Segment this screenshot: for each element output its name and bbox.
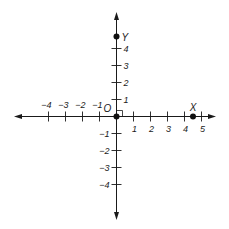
origin-label: O: [104, 103, 112, 114]
y-tick-label: −2: [99, 146, 109, 156]
x-tick-label: 4: [183, 124, 188, 134]
y-tick-label: −3: [99, 163, 109, 173]
y-tick-label: −4: [99, 180, 109, 190]
y-tick-label: 3: [124, 61, 129, 71]
point-y-marker: [114, 34, 120, 40]
y-tick-label: 1: [124, 95, 129, 105]
x-axis-right-arrow-icon: [208, 114, 216, 119]
y-tick-label: 4: [124, 44, 129, 54]
x-tick-label: −3: [58, 100, 68, 110]
y-axis-top-arrow-icon: [114, 12, 119, 20]
x-tick-label: −4: [41, 100, 51, 110]
point-origin-marker: [114, 114, 120, 120]
y-axis-bottom-arrow-icon: [114, 212, 119, 220]
x-tick-label: 5: [200, 124, 206, 134]
point-y-label: Y: [122, 32, 130, 43]
x-tick-label: −1: [92, 100, 102, 110]
y-tick-label: −1: [99, 129, 109, 139]
point-x-label: X: [189, 102, 197, 113]
x-tick-label: 2: [148, 124, 154, 134]
x-tick-label: −2: [75, 100, 85, 110]
x-axis-left-arrow-icon: [14, 114, 22, 119]
x-tick-label: 3: [166, 124, 171, 134]
coordinate-plane: −4−3−2−1123454321−1−2−3−4OXY: [0, 0, 229, 229]
y-tick-label: 2: [123, 78, 129, 88]
point-x-marker: [190, 114, 196, 120]
x-tick-label: 1: [132, 124, 137, 134]
